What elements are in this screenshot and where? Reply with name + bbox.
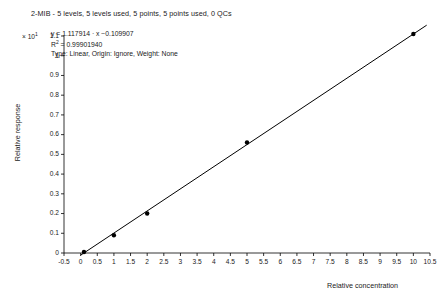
- y-tick-label: 0.7: [26, 111, 59, 118]
- regression-line: [81, 25, 427, 255]
- y-tick-label: 0.2: [26, 209, 59, 216]
- x-tick-label: 10.5: [418, 258, 442, 265]
- y-tick-label: 0.3: [26, 190, 59, 197]
- y-tick-label: 0.8: [26, 91, 59, 98]
- data-point-marker: [112, 233, 116, 237]
- data-point-marker: [145, 211, 149, 215]
- fit-equation: y = 1.117914 · x −0.109907: [51, 30, 178, 38]
- chart-title: 2-MIB - 5 levels, 5 levels used, 5 point…: [31, 9, 232, 18]
- y-tick-label: 0: [26, 249, 59, 256]
- fit-type-info: Type: Linear, Origin: Ignore, Weight: No…: [51, 50, 178, 58]
- y-tick-label: 1.1: [26, 32, 59, 39]
- y-axis-title: Relative response: [13, 78, 22, 188]
- fit-r-squared: R2 = 0.99901940: [51, 38, 178, 49]
- r-squared-value: = 0.99901940: [59, 41, 103, 48]
- fit-annotation-block: y = 1.117914 · x −0.109907 R2 = 0.999019…: [51, 30, 178, 58]
- y-tick-label: 0.9: [26, 71, 59, 78]
- y-tick-label: 1: [26, 52, 59, 59]
- y-tick-label: 0.6: [26, 130, 59, 137]
- y-tick-label: 0.4: [26, 170, 59, 177]
- calibration-curve-chart: 2-MIB - 5 levels, 5 levels used, 5 point…: [0, 0, 444, 304]
- y-tick-label: 0.1: [26, 229, 59, 236]
- x-axis-title: Relative concentration: [327, 281, 398, 290]
- data-point-marker: [245, 140, 249, 144]
- y-tick-label: 0.5: [26, 150, 59, 157]
- data-point-marker: [82, 250, 86, 254]
- data-point-marker: [411, 32, 415, 36]
